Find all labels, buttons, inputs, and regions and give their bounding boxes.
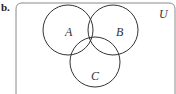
label-b: B (116, 25, 124, 39)
label-c: C (91, 69, 100, 83)
label-a: A (64, 25, 73, 39)
label-u: U (159, 7, 169, 21)
circle-b (88, 5, 138, 55)
venn-diagram: A B C U (0, 0, 176, 94)
